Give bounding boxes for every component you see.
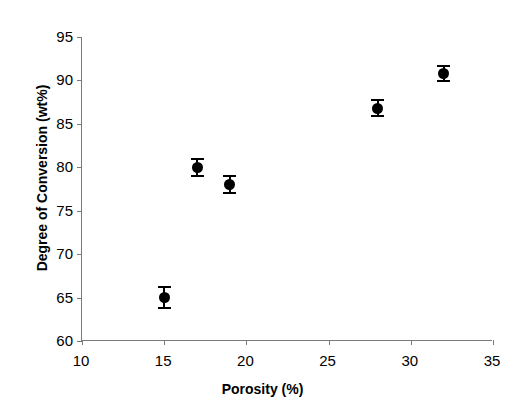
data-marker <box>192 162 203 173</box>
y-tick <box>77 254 82 255</box>
plot-area <box>81 37 492 341</box>
x-tick-label: 20 <box>225 353 265 368</box>
error-bar-cap-lower <box>223 192 236 194</box>
y-tick <box>77 80 82 81</box>
x-tick <box>493 340 494 345</box>
error-bar-cap-upper <box>437 65 450 67</box>
y-axis-title: Degree of Conversion (wt%) <box>34 48 50 308</box>
data-marker <box>438 68 449 79</box>
y-tick <box>77 211 82 212</box>
x-tick-label: 10 <box>61 353 101 368</box>
x-tick-label: 35 <box>472 353 512 368</box>
x-tick-label: 30 <box>390 353 430 368</box>
x-axis-title: Porosity (%) <box>0 381 525 397</box>
x-tick <box>329 340 330 345</box>
x-tick <box>164 340 165 345</box>
data-marker <box>159 292 170 303</box>
y-tick <box>77 124 82 125</box>
y-tick <box>77 167 82 168</box>
chart-figure: 6065707580859095 101520253035 Degree of … <box>0 0 525 414</box>
x-tick-label: 15 <box>143 353 183 368</box>
y-tick <box>77 298 82 299</box>
x-tick <box>411 340 412 345</box>
error-bar-cap-upper <box>223 175 236 177</box>
data-marker <box>224 179 235 190</box>
error-bar-cap-upper <box>371 99 384 101</box>
error-bar-cap-upper <box>191 158 204 160</box>
x-tick <box>246 340 247 345</box>
x-tick-label: 25 <box>308 353 348 368</box>
error-bar-cap-lower <box>158 307 171 309</box>
error-bar-cap-lower <box>437 80 450 82</box>
y-tick-label: 95 <box>33 29 73 44</box>
error-bar-cap-lower <box>191 175 204 177</box>
x-tick <box>82 340 83 345</box>
error-bar-cap-upper <box>158 286 171 288</box>
error-bar-cap-lower <box>371 115 384 117</box>
data-marker <box>372 103 383 114</box>
y-tick-label: 60 <box>33 333 73 348</box>
y-tick <box>77 37 82 38</box>
